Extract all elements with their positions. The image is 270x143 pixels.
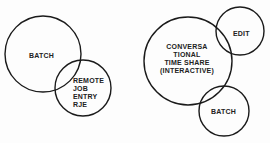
- edit-label: EDIT: [233, 30, 250, 38]
- rje-label: REMOTE JOB ENTRY RJE: [73, 77, 104, 109]
- batch-label-left: BATCH: [29, 52, 54, 60]
- venn-circles: [0, 0, 270, 143]
- timeshare-label: CONVERSA TIONAL TIME SHARE (INTERACTIVE): [160, 43, 214, 75]
- batch-label-right: BATCH: [211, 108, 236, 116]
- diagram-canvas: BATCH REMOTE JOB ENTRY RJE CONVERSA TION…: [0, 0, 270, 143]
